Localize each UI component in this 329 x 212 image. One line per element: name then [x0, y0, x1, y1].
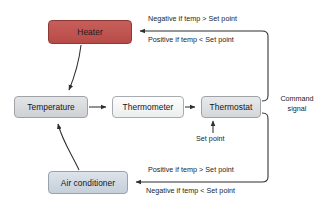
node-thermometer-label: Thermometer — [123, 102, 174, 112]
thermostat-control-diagram: Heater Temperature Thermometer Thermosta… — [0, 0, 329, 212]
node-heater-label: Heater — [77, 27, 102, 37]
edge-label-top-positive: Positive if temp < Set point — [148, 35, 234, 44]
node-thermostat-label: Thermostat — [210, 102, 253, 112]
edge-label-top-negative: Negative if temp > Set point — [148, 14, 237, 23]
edge-label-bottom-positive: Positive if temp > Set point — [148, 165, 234, 174]
command-signal-line-2: signal — [272, 104, 322, 114]
node-temperature-label: Temperature — [27, 102, 75, 112]
command-signal-line-1: Command — [272, 94, 322, 104]
node-thermometer[interactable]: Thermometer — [112, 96, 184, 118]
edge-airconditioner-to-temperature — [58, 124, 79, 170]
edge-label-bottom-negative: Negative if temp < Set point — [146, 186, 235, 195]
node-air-conditioner[interactable]: Air conditioner — [48, 171, 128, 194]
edge-heater-to-temperature — [69, 45, 81, 90]
node-heater[interactable]: Heater — [48, 20, 132, 44]
edge-label-set-point: Set point — [196, 134, 225, 143]
node-thermostat[interactable]: Thermostat — [201, 96, 261, 118]
node-temperature[interactable]: Temperature — [14, 96, 88, 118]
node-air-conditioner-label: Air conditioner — [61, 178, 115, 188]
edge-label-command-signal: Command signal — [272, 94, 322, 113]
